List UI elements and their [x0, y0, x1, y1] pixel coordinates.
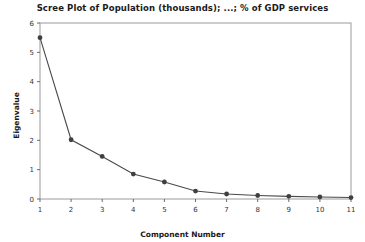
- data-point-marker: [69, 137, 74, 142]
- series-line: [40, 38, 351, 198]
- data-point-marker: [162, 180, 167, 185]
- y-tick-label: 4: [30, 78, 35, 86]
- x-tick-label: 11: [347, 206, 356, 214]
- data-point-marker: [224, 192, 229, 197]
- x-tick-label: 5: [162, 206, 166, 214]
- y-tick-label: 6: [30, 20, 35, 28]
- x-axis-title: Component Number: [0, 230, 365, 239]
- y-tick-label: 0: [30, 196, 34, 204]
- scree-plot-figure: Scree Plot of Population (thousands); ..…: [0, 0, 365, 242]
- x-tick-label: 3: [100, 206, 104, 214]
- x-tick-label: 1: [38, 206, 42, 214]
- data-point-marker: [318, 195, 323, 200]
- data-point-marker: [349, 195, 354, 200]
- plot-frame: [40, 23, 351, 199]
- x-tick-label: 9: [287, 206, 291, 214]
- x-tick-label: 7: [224, 206, 228, 214]
- data-point-marker: [286, 194, 291, 199]
- data-point-marker: [255, 193, 260, 198]
- data-point-marker: [100, 154, 105, 159]
- x-tick-label: 4: [131, 206, 136, 214]
- x-tick-label: 6: [193, 206, 198, 214]
- data-point-marker: [131, 172, 136, 177]
- y-tick-label: 5: [30, 49, 34, 57]
- y-tick-label: 3: [30, 108, 34, 116]
- x-tick-label: 8: [255, 206, 259, 214]
- x-tick-label: 10: [315, 206, 324, 214]
- plot-canvas: 01234561234567891011: [0, 0, 365, 242]
- x-tick-label: 2: [69, 206, 73, 214]
- data-point-marker: [38, 35, 43, 40]
- y-tick-label: 1: [30, 166, 34, 174]
- y-tick-label: 2: [30, 137, 34, 145]
- data-point-marker: [193, 189, 198, 194]
